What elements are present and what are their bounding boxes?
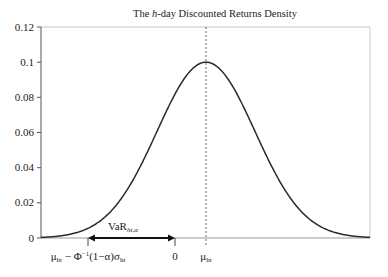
y-tick-label: 0.12: [15, 21, 34, 33]
var-lower-label: μht − Φ−1(1−α)σht: [51, 250, 126, 264]
density-chart: The h-day Discounted Returns Density 0 0…: [0, 0, 388, 277]
arrow-left-icon: [88, 235, 95, 242]
y-tick-label: 0: [29, 232, 35, 244]
zero-label: 0: [172, 250, 178, 262]
arrow-right-icon: [168, 235, 175, 242]
y-tick-label: 0.06: [15, 126, 35, 138]
y-tick-label: 0.08: [15, 91, 35, 103]
y-tick-label: 0.02: [15, 196, 34, 208]
var-double-arrow: [88, 235, 175, 242]
var-label: VaRht,α: [108, 220, 138, 234]
y-axis-tick-labels: 0 0.02 0.04 0.06 0.08 0.1 0.12: [15, 21, 35, 244]
mean-label: μht: [200, 250, 211, 264]
y-tick-label: 0.04: [15, 161, 35, 173]
y-axis-ticks: [37, 27, 41, 238]
chart-title: The h-day Discounted Returns Density: [133, 8, 298, 19]
y-tick-label: 0.1: [20, 56, 34, 68]
